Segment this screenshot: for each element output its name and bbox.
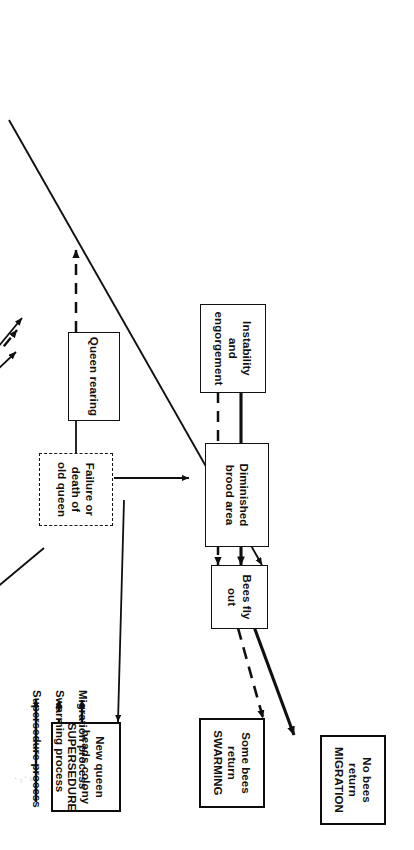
legend: Migration process Swarming process Super…: [4, 640, 114, 840]
node-swarming-label: Some bees return SWARMING: [211, 728, 253, 797]
node-migration[interactable]: No bees return MIGRATION: [320, 735, 386, 825]
node-bees-fly-out[interactable]: Bees fly out: [211, 565, 268, 629]
node-instability-label: Instability and engorgement: [212, 310, 254, 388]
legend-item-swarming: Swarming process: [54, 690, 66, 792]
node-diminished-brood-area-label: Diminished brood area: [223, 462, 251, 529]
edge-beesflyout-to-swarming: [238, 628, 263, 718]
legend-item-supersedure: Supersedure process: [31, 690, 43, 808]
edge-colonyhindered-to-instability: [0, 318, 22, 410]
node-queen-rearing-label: Queen rearing: [87, 335, 101, 418]
node-failure-of-old-queen[interactable]: Failure or death of old queen: [39, 453, 113, 526]
edge-diminishedbrood-to-crowding: [0, 548, 44, 650]
edge-colonyhindered-to-queenrearing-dashed: [0, 330, 17, 420]
node-migration-label: No bees return MIGRATION: [332, 745, 374, 815]
diagram-canvas: No bees return MIGRATION Some bees retur…: [0, 0, 414, 850]
legend-label-swarming: Swarming process: [54, 690, 66, 792]
node-swarming[interactable]: Some bees return SWARMING: [199, 718, 265, 808]
legend-item-migration: Migration process: [77, 690, 89, 789]
node-queen-rearing[interactable]: Queen rearing: [68, 332, 120, 421]
diagram-page: ·₃·₅·: [0, 0, 414, 850]
legend-label-migration: Migration process: [77, 690, 89, 789]
node-failure-of-old-queen-label: Failure or death of old queen: [55, 460, 97, 519]
node-bees-fly-out-label: Bees fly out: [225, 573, 253, 622]
node-diminished-brood-area[interactable]: Diminished brood area: [205, 443, 269, 547]
edge-queenrearing-to-supersedure: [118, 500, 124, 722]
legend-label-supersedure: Supersedure process: [31, 690, 43, 808]
edge-colonyhindered-to-queenrearing-solid: [0, 352, 16, 432]
node-instability[interactable]: Instability and engorgement: [200, 304, 266, 393]
